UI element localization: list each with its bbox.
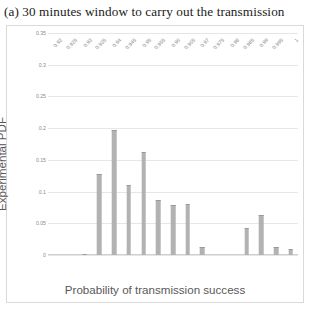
figure-caption: (a) 30 minutes window to carry out the t…	[4, 4, 306, 20]
bar	[244, 228, 249, 255]
bar	[200, 247, 205, 255]
bar-series	[48, 33, 298, 255]
bar-slot	[254, 33, 269, 255]
bar	[141, 152, 146, 255]
bar	[112, 130, 117, 255]
gridline	[48, 255, 298, 256]
y-tick-label: 0.05	[6, 220, 46, 226]
figure-root: (a) 30 minutes window to carry out the t…	[0, 0, 310, 309]
bar-slot	[283, 33, 298, 255]
y-tick-label: 0.25	[6, 93, 46, 99]
bar-slot	[195, 33, 210, 255]
bar	[97, 174, 102, 255]
bar-slot	[180, 33, 195, 255]
bar	[259, 215, 264, 255]
bar-slot	[224, 33, 239, 255]
y-tick-label: 0	[6, 252, 46, 258]
bar	[274, 247, 279, 255]
bar-slot	[77, 33, 92, 255]
chart-container: Experimental PDF 00.050.10.150.20.250.30…	[6, 25, 304, 303]
bar	[156, 200, 161, 255]
bar-slot	[210, 33, 225, 255]
bar	[171, 205, 176, 255]
bar-slot	[151, 33, 166, 255]
bar-slot	[239, 33, 254, 255]
bar-slot	[63, 33, 78, 255]
bar-slot	[122, 33, 137, 255]
y-tick-label: 0.15	[6, 157, 46, 163]
bar-slot	[107, 33, 122, 255]
bar	[127, 185, 132, 255]
plot-area: 00.050.10.150.20.250.30.35 0.920.9250.93…	[48, 33, 298, 255]
bar	[185, 204, 190, 255]
bar-slot	[269, 33, 284, 255]
x-axis-title: Probability of transmission success	[7, 283, 303, 296]
bar	[288, 249, 293, 255]
bar-slot	[92, 33, 107, 255]
bar	[82, 254, 87, 256]
y-tick-label: 0.35	[6, 30, 46, 36]
y-tick-label: 0.3	[6, 62, 46, 68]
bar-slot	[166, 33, 181, 255]
y-tick-label: 0.2	[6, 125, 46, 131]
bar-slot	[136, 33, 151, 255]
bar-slot	[48, 33, 63, 255]
y-tick-label: 0.1	[6, 189, 46, 195]
